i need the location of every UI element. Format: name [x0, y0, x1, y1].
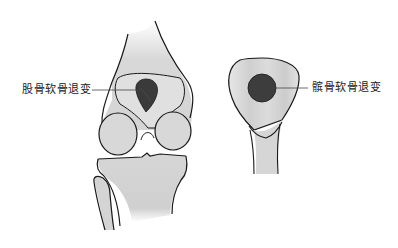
fibula	[94, 176, 114, 230]
knee-illustration-svg	[0, 0, 398, 248]
femoral-cartilage-degeneration-label: 股骨软骨退变	[22, 83, 91, 97]
intercondylar-notch	[141, 133, 154, 140]
illustration: 股骨软骨退变 髌骨软骨退变	[0, 0, 398, 248]
medial-condyle	[99, 113, 137, 155]
lateral-condyle	[155, 112, 191, 150]
patellar-cartilage-degeneration-label: 髌骨软骨退变	[312, 81, 381, 95]
